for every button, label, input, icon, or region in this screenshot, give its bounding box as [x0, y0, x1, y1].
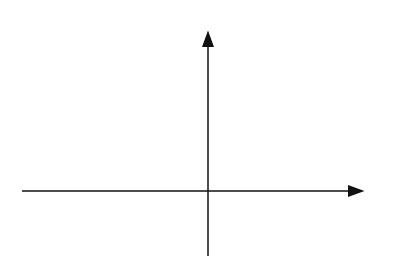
parabola-chart [0, 0, 396, 272]
